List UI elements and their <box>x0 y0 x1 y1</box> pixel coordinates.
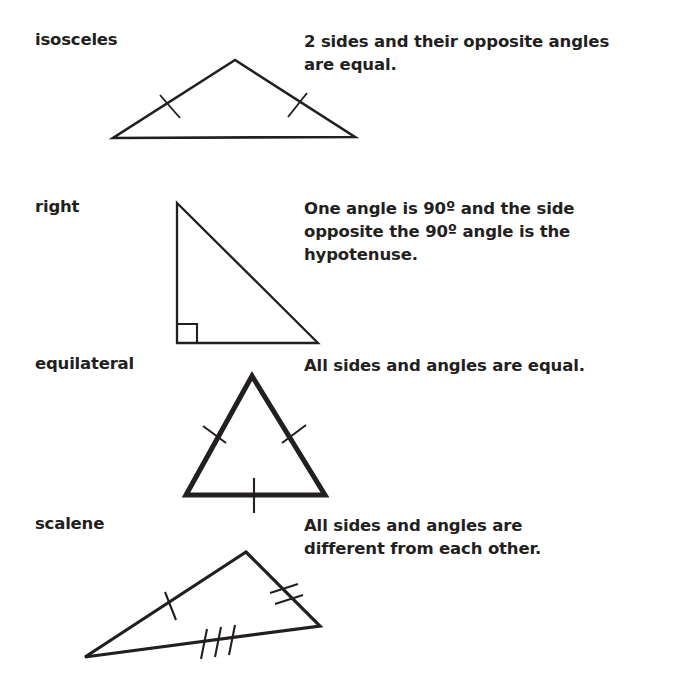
row-equilateral: equilateral All sides and angles are equ… <box>0 350 694 515</box>
description-scalene: All sides and angles are different from … <box>304 515 684 561</box>
isosceles-triangle-svg <box>100 45 380 155</box>
label-equilateral: equilateral <box>35 355 134 374</box>
figure-isosceles-triangle <box>100 45 380 155</box>
scalene-tick-bottom-2 <box>215 627 221 657</box>
scalene-triangle-outline <box>85 552 320 657</box>
scalene-tick-upper-left <box>165 592 176 620</box>
right-angle-marker-icon <box>177 324 197 343</box>
right-triangle-svg <box>160 195 360 350</box>
description-equilateral: All sides and angles are equal. <box>304 355 684 378</box>
row-scalene: scalene All sides and angles are differe… <box>0 505 694 687</box>
figure-right-triangle <box>160 195 360 350</box>
isosceles-triangle-outline <box>113 60 355 138</box>
row-isosceles: isosceles 2 sides and their opposite ang… <box>0 0 694 180</box>
figure-scalene-triangle <box>70 540 340 680</box>
scalene-triangle-svg <box>70 540 340 680</box>
figure-equilateral-triangle <box>170 368 350 516</box>
scalene-tick-bottom-3 <box>229 625 235 655</box>
triangle-types-worksheet: isosceles 2 sides and their opposite ang… <box>0 0 694 687</box>
equilateral-triangle-outline <box>186 376 325 495</box>
row-right: right One angle is 90º and the side oppo… <box>0 180 694 355</box>
label-scalene: scalene <box>35 515 104 534</box>
right-triangle-outline <box>177 203 318 343</box>
label-right: right <box>35 198 79 217</box>
equilateral-triangle-svg <box>170 368 350 516</box>
description-right: One angle is 90º and the side opposite t… <box>304 198 684 266</box>
scalene-tick-bottom-1 <box>201 629 207 659</box>
